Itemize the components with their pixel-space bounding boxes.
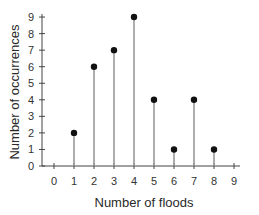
x-axis: 0123456789 [42,163,240,187]
data-point-marker [71,130,77,136]
data-point-marker [171,146,177,152]
x-tick-label: 0 [51,175,57,187]
x-tick-label: 4 [131,175,137,187]
y-tick-label: 6 [28,61,34,73]
x-tick-label: 8 [211,175,217,187]
x-tick-label: 7 [191,175,197,187]
y-tick-label: 3 [28,110,34,122]
x-tick-label: 2 [91,175,97,187]
x-tick-label: 5 [151,175,157,187]
data-point-marker [151,97,157,103]
y-tick-label: 9 [28,11,34,23]
y-axis-title: Number of occurrences [7,24,22,160]
flood-occurrence-stem-chart: 0123456789 0123456789 Number of floods N… [0,0,259,215]
data-stems [74,17,214,166]
x-axis-title: Number of floods [95,195,194,210]
y-tick-label: 2 [28,127,34,139]
x-tick-label: 3 [111,175,117,187]
data-point-marker [91,63,97,69]
y-tick-label: 1 [28,143,34,155]
y-axis: 0123456789 [28,11,45,172]
data-markers [71,14,217,153]
x-tick-label: 6 [171,175,177,187]
y-tick-label: 0 [28,160,34,172]
x-tick-label: 1 [71,175,77,187]
y-tick-label: 7 [28,44,34,56]
y-tick-label: 8 [28,28,34,40]
y-tick-label: 4 [28,94,34,106]
x-tick-label: 9 [231,175,237,187]
y-tick-label: 5 [28,77,34,89]
data-point-marker [211,146,217,152]
data-point-marker [111,47,117,53]
data-point-marker [191,97,197,103]
data-point-marker [131,14,137,20]
